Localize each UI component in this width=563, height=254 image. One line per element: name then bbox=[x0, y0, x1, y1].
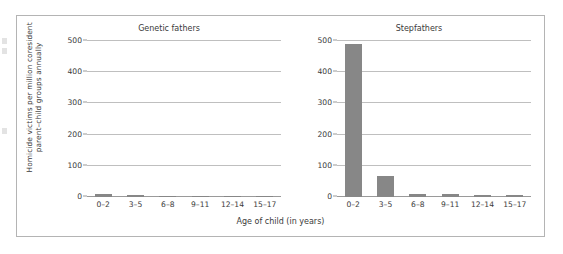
bar[interactable] bbox=[256, 196, 273, 197]
x-tick-labels-genetic-fathers: 0–2 3–5 6–8 9–11 12–14 15–17 bbox=[87, 200, 281, 209]
bar-slot bbox=[152, 41, 184, 197]
y-tick-label-500: 500 bbox=[68, 36, 83, 45]
bar-slot bbox=[369, 41, 401, 197]
bar[interactable] bbox=[224, 196, 241, 197]
x-tick-label: 9–11 bbox=[434, 200, 466, 209]
y-tick-label-0: 0 bbox=[77, 192, 82, 201]
bar-slot bbox=[249, 41, 281, 197]
bar[interactable] bbox=[192, 196, 209, 197]
x-tick-label: 6–8 bbox=[152, 200, 184, 209]
bar[interactable] bbox=[345, 44, 362, 197]
panel-title-stepfathers: Stepfathers bbox=[305, 24, 533, 33]
x-tick-label: 9–11 bbox=[184, 200, 216, 209]
y-tick-label-200: 200 bbox=[68, 129, 83, 138]
y-tick-label-500: 500 bbox=[318, 36, 333, 45]
bar[interactable] bbox=[377, 176, 394, 197]
y-tick-label-200: 200 bbox=[318, 129, 333, 138]
panel-title-genetic-fathers: Genetic fathers bbox=[55, 24, 283, 33]
bar[interactable] bbox=[474, 195, 491, 197]
bar-slot bbox=[499, 41, 531, 197]
bar[interactable] bbox=[409, 194, 426, 197]
bar-slot bbox=[184, 41, 216, 197]
bar[interactable] bbox=[95, 194, 112, 197]
x-tick-label: 0–2 bbox=[87, 200, 119, 209]
bar[interactable] bbox=[127, 195, 144, 197]
x-tick-label: 15–17 bbox=[249, 200, 281, 209]
bar-slot bbox=[434, 41, 466, 197]
bar-group-genetic-fathers bbox=[87, 41, 281, 197]
page-edge-artifact bbox=[2, 128, 7, 134]
x-tick-label: 3–5 bbox=[119, 200, 151, 209]
y-tick-label-300: 300 bbox=[68, 98, 83, 107]
x-tick-label: 0–2 bbox=[337, 200, 369, 209]
y-tick-label-400: 400 bbox=[318, 67, 333, 76]
bar[interactable] bbox=[442, 194, 459, 197]
panel-container: Genetic fathers 500 400 300 200 100 0 bbox=[17, 16, 544, 236]
x-tick-label: 12–14 bbox=[466, 200, 498, 209]
y-tick-label-100: 100 bbox=[68, 160, 83, 169]
y-tick-label-400: 400 bbox=[68, 67, 83, 76]
panel-stepfathers: Stepfathers 500 400 300 200 100 0 0– bbox=[305, 24, 533, 220]
bar-slot bbox=[402, 41, 434, 197]
bar[interactable] bbox=[506, 195, 523, 197]
x-tick-label: 6–8 bbox=[402, 200, 434, 209]
plot-area-stepfathers: 500 400 300 200 100 0 bbox=[337, 41, 531, 197]
bar-slot bbox=[337, 41, 369, 197]
x-tick-label: 15–17 bbox=[499, 200, 531, 209]
bar-slot bbox=[119, 41, 151, 197]
x-tick-label: 3–5 bbox=[369, 200, 401, 209]
y-tick-label-0: 0 bbox=[327, 192, 332, 201]
bar-slot bbox=[466, 41, 498, 197]
figure-frame: Homicide victims per million coresident … bbox=[16, 15, 545, 237]
x-tick-labels-stepfathers: 0–2 3–5 6–8 9–11 12–14 15–17 bbox=[337, 200, 531, 209]
plot-area-genetic-fathers: 500 400 300 200 100 0 bbox=[87, 41, 281, 197]
panel-genetic-fathers: Genetic fathers 500 400 300 200 100 0 bbox=[55, 24, 283, 220]
y-tick-label-100: 100 bbox=[318, 160, 333, 169]
bar[interactable] bbox=[159, 196, 176, 197]
x-axis-label: Age of child (in years) bbox=[17, 217, 544, 226]
bar-slot bbox=[87, 41, 119, 197]
page-edge-artifact bbox=[2, 38, 7, 44]
x-tick-label: 12–14 bbox=[216, 200, 248, 209]
y-tick-label-300: 300 bbox=[318, 98, 333, 107]
bar-group-stepfathers bbox=[337, 41, 531, 197]
page-edge-artifact bbox=[2, 48, 7, 54]
bar-slot bbox=[216, 41, 248, 197]
